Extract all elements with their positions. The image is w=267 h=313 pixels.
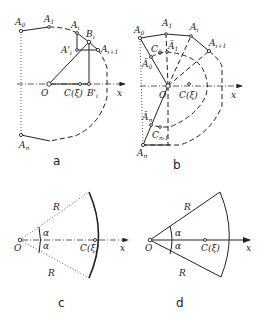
label-abarn: Ān (141, 111, 153, 123)
point-abar0 (150, 56, 153, 59)
label-x: x (120, 243, 125, 253)
label-x: x (246, 243, 251, 253)
label-alpha-top: α (43, 228, 49, 238)
point-a1 (48, 26, 51, 29)
label-abar0: Ā0 (141, 58, 153, 70)
label-cn1: Cn-1 (152, 130, 169, 141)
label-alpha-top: α (175, 228, 181, 238)
point-ai (190, 35, 193, 38)
label-o: O (41, 88, 49, 98)
label-abar1: Ā1 (167, 40, 178, 52)
label-ai1: Ai+1 (100, 44, 118, 55)
arc (220, 192, 229, 277)
label-o: O (145, 243, 153, 253)
label-bpi: B'i (86, 88, 98, 99)
caption-a: a (53, 154, 60, 168)
point-abarn (150, 124, 153, 127)
caption-d: d (176, 296, 184, 310)
radius-top (20, 192, 89, 240)
panel-b: A0 A1 Ai Ai+1 C0 Ā1 Ā0 O C(ξ) x Ān Cn-1 … (133, 18, 242, 172)
point-an (141, 143, 144, 146)
label-c0: C0 (151, 44, 162, 55)
point-o (18, 238, 22, 242)
label-a1: A1 (43, 14, 54, 25)
point-bi (87, 40, 91, 44)
point-c (188, 83, 191, 86)
point-ai1 (207, 49, 210, 52)
point-an (19, 133, 22, 136)
label-o: O (14, 243, 22, 253)
label-ai: Ai (189, 22, 199, 33)
figure-canvas: A0 A1 Ai Bi Ai+1 A'i O C(ξ) B'i x An a (0, 0, 267, 313)
label-an: An (18, 140, 30, 151)
label-x: x (231, 90, 236, 100)
caption-b: b (173, 158, 181, 172)
angle-marker (39, 227, 41, 253)
label-r-top: R (183, 202, 191, 212)
point-o (166, 84, 170, 88)
label-a0: A0 (133, 25, 145, 36)
label-c: C(ξ) (179, 90, 198, 100)
point-ai (76, 32, 79, 35)
label-a0: A0 (14, 17, 26, 28)
left-dotted-line (140, 38, 143, 145)
label-ai1: Ai+1 (208, 38, 226, 49)
point-ai1 (96, 48, 99, 51)
label-r-bottom: R (47, 268, 55, 278)
point-cn1 (159, 126, 162, 129)
label-c: C(ξ) (201, 243, 220, 253)
panel-d: R R α α O C(ξ) x d (145, 192, 251, 310)
label-api: A'i (60, 45, 72, 56)
point-a1 (165, 33, 168, 36)
label-alpha-bottom: α (43, 241, 49, 251)
point-bpi (88, 83, 91, 86)
point-api (76, 49, 79, 52)
label-x: x (117, 88, 122, 98)
label-c: C(ξ) (80, 243, 99, 253)
point-c (94, 239, 97, 242)
panel-a: A0 A1 Ai Bi Ai+1 A'i O C(ξ) B'i x An a (14, 14, 125, 168)
label-a1: A1 (161, 18, 172, 29)
label-c: C(ξ) (64, 88, 83, 98)
point-c (204, 239, 207, 242)
point-c (79, 83, 82, 86)
point-a0 (19, 29, 22, 32)
point-o (148, 238, 152, 242)
radius-top (150, 192, 220, 240)
label-o: O (159, 90, 167, 100)
point-o (47, 82, 51, 86)
point-a0 (138, 36, 141, 39)
label-r-bottom: R (178, 268, 186, 278)
panel-c: R R α α O C(ξ) x c (14, 192, 128, 310)
point-abar1 (166, 51, 169, 54)
caption-c: c (58, 296, 65, 310)
label-bi: Bi (85, 29, 95, 40)
label-alpha-bottom: α (175, 241, 181, 251)
label-an: An (136, 148, 148, 159)
arc (89, 192, 99, 278)
label-ai: Ai (70, 20, 80, 31)
label-r-top: R (52, 202, 60, 212)
